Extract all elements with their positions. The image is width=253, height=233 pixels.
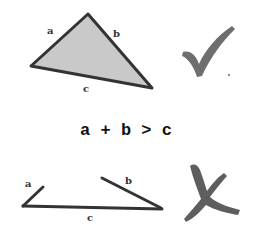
invalid-triangle: a b c [23, 175, 162, 223]
cross-icon [184, 165, 240, 222]
valid-triangle: a b c [31, 14, 152, 94]
invalid-side-c [23, 206, 162, 209]
check-icon [182, 26, 235, 77]
invalid-label-c: c [87, 212, 93, 223]
invalid-label-b: b [125, 175, 132, 186]
invalid-label-a: a [25, 178, 32, 189]
valid-label-c: c [83, 83, 89, 94]
valid-label-a: a [47, 25, 54, 36]
inequality-equation: a + b > c [80, 121, 172, 140]
triangle-inequality-diagram: a b c a + b > c a b c [0, 0, 253, 233]
invalid-side-a [23, 187, 43, 206]
valid-label-b: b [113, 28, 120, 39]
